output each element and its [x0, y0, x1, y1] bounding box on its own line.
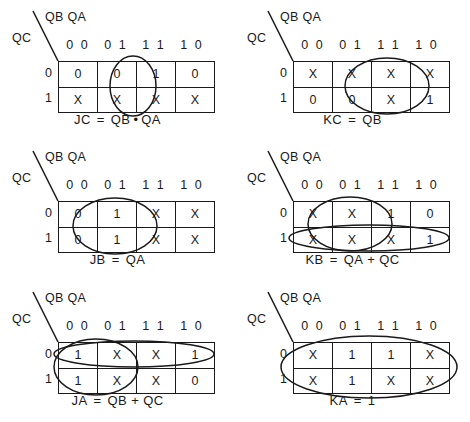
kmap-cell-r0-c1: X [98, 343, 137, 369]
column-header-0: 0 0 [58, 38, 96, 58]
kmap-cell-r1-c1: X [98, 368, 137, 394]
column-headers: 0 00 11 11 0 [293, 319, 445, 339]
column-header-2: 1 1 [134, 319, 172, 339]
table-row: 00X1 [294, 87, 450, 113]
equation-equals: = [330, 252, 338, 267]
row-header-1: 1 [263, 367, 287, 392]
kmap-cell-r0-c3: 1 [176, 343, 215, 369]
column-headers: 0 00 11 11 0 [293, 38, 445, 58]
kmap-kb-grid: XX10XXX1 [293, 201, 450, 253]
table-row: XXXX [294, 62, 450, 88]
table-row: XXXX [59, 87, 215, 113]
column-header-3: 1 0 [407, 178, 445, 198]
kmap-kc-equation: KC=QB [235, 112, 470, 127]
row-headers: 01 [28, 61, 52, 110]
equation-operator-1: + [367, 252, 375, 267]
column-header-1: 0 1 [96, 38, 134, 58]
table-row: 1XX0 [59, 368, 215, 394]
equation-term-0: QB [111, 112, 131, 127]
column-header-3: 1 0 [172, 38, 210, 58]
column-header-1: 0 1 [331, 38, 369, 58]
column-header-1: 0 1 [96, 319, 134, 339]
row-headers: 01 [263, 61, 287, 110]
kmap-cell-r0-c2: 1 [137, 62, 176, 88]
table-row: 1XX1 [59, 343, 215, 369]
equation-term-0: QB [362, 112, 382, 127]
kmap-kb-equation: KB=QA+QC [235, 252, 470, 267]
equation-term-0: 1 [368, 393, 376, 408]
column-header-2: 1 1 [369, 38, 407, 58]
row-headers: 01 [28, 342, 52, 391]
row-headers: 01 [263, 201, 287, 250]
kmap-cell-r1-c2: X [372, 368, 411, 394]
row-header-1: 1 [28, 86, 52, 111]
kmap-cell-r1-c1: X [98, 87, 137, 113]
equation-equals: = [348, 112, 356, 127]
kmap-cell-r0-c1: X [333, 62, 372, 88]
axis-label-top: QB QA [45, 10, 86, 24]
kmap-cell-r0-c2: 1 [372, 202, 411, 228]
row-header-1: 1 [263, 226, 287, 251]
axis-label-side: QC [12, 171, 31, 185]
kmap-jb-header: QB QAQC0 00 11 11 0 [0, 140, 235, 201]
kmap-cell-r0-c1: 0 [98, 62, 137, 88]
kmap-jb-grid-wrap: 01XX01XX [58, 201, 210, 250]
kmap-cell-r1-c3: X [176, 227, 215, 253]
axis-label-top: QB QA [280, 10, 321, 24]
kmap-cell-r0-c3: 0 [176, 62, 215, 88]
column-headers: 0 00 11 11 0 [58, 178, 210, 198]
kmap-ja-header: QB QAQC0 00 11 11 0 [0, 281, 235, 342]
column-header-3: 1 0 [407, 38, 445, 58]
equation-lhs: JA [72, 393, 88, 408]
kmap-jc-grid-wrap: 0010XXXX [58, 61, 210, 110]
axis-label-side: QC [247, 31, 266, 45]
kmap-ka-grid: X11XX1XX [293, 342, 450, 394]
kmap-cell-r0-c3: X [176, 202, 215, 228]
row-header-0: 0 [263, 342, 287, 367]
equation-lhs: KB [305, 252, 323, 267]
equation-term-0: QB [108, 393, 128, 408]
table-row: XXX1 [294, 227, 450, 253]
kmap-jc-grid: 0010XXXX [58, 61, 215, 113]
table-row: XX10 [294, 202, 450, 228]
table-row: 01XX [59, 227, 215, 253]
column-header-0: 0 0 [293, 38, 331, 58]
equation-lhs: JB [90, 252, 106, 267]
kmap-cell-r1-c1: 0 [333, 87, 372, 113]
axis-label-top: QB QA [45, 291, 86, 305]
equation-operator-1: + [131, 393, 139, 408]
row-header-0: 0 [263, 61, 287, 86]
kmap-cell-r1-c2: X [372, 227, 411, 253]
kmap-cell-r0-c0: X [294, 343, 333, 369]
kmap-cell-r1-c1: 1 [98, 227, 137, 253]
row-header-1: 1 [28, 226, 52, 251]
kmap-cell-r0-c0: 1 [59, 343, 98, 369]
kmap-ja-equation: JA=QB+QC [0, 393, 235, 408]
kmap-cell-r0-c3: X [411, 62, 450, 88]
kmap-cell-r0-c0: 0 [59, 62, 98, 88]
kmap-cell-r0-c2: X [137, 343, 176, 369]
kmap-cell-r0-c2: X [372, 62, 411, 88]
kmap-cell-r1-c0: 1 [59, 368, 98, 394]
column-header-2: 1 1 [134, 38, 172, 58]
equation-lhs: JC [74, 112, 91, 127]
column-headers: 0 00 11 11 0 [58, 319, 210, 339]
kmap-cell-r1-c2: X [137, 227, 176, 253]
kmap-ja-grid: 1XX11XX0 [58, 342, 215, 394]
kmap-cell-r1-c1: 1 [333, 368, 372, 394]
equation-equals: = [354, 393, 362, 408]
kmap-jb-grid: 01XX01XX [58, 201, 215, 253]
kmap-ka-grid-wrap: X11XX1XX [293, 342, 445, 391]
axis-label-top: QB QA [45, 150, 86, 164]
axis-label-top: QB QA [280, 150, 321, 164]
table-row: 01XX [59, 202, 215, 228]
kmap-cell-r1-c3: X [411, 368, 450, 394]
kmap-ka-header: QB QAQC0 00 11 11 0 [235, 281, 470, 342]
kmap-ka: QB QAQC0 00 11 11 001X11XX1XXKA=1 [235, 281, 470, 421]
column-header-0: 0 0 [293, 319, 331, 339]
kmap-ja-grid-wrap: 1XX11XX0 [58, 342, 210, 391]
kmap-ka-equation: KA=1 [235, 393, 470, 408]
kmap-cell-r1-c0: 0 [294, 87, 333, 113]
column-header-1: 0 1 [331, 178, 369, 198]
kmap-cell-r0-c2: X [137, 202, 176, 228]
